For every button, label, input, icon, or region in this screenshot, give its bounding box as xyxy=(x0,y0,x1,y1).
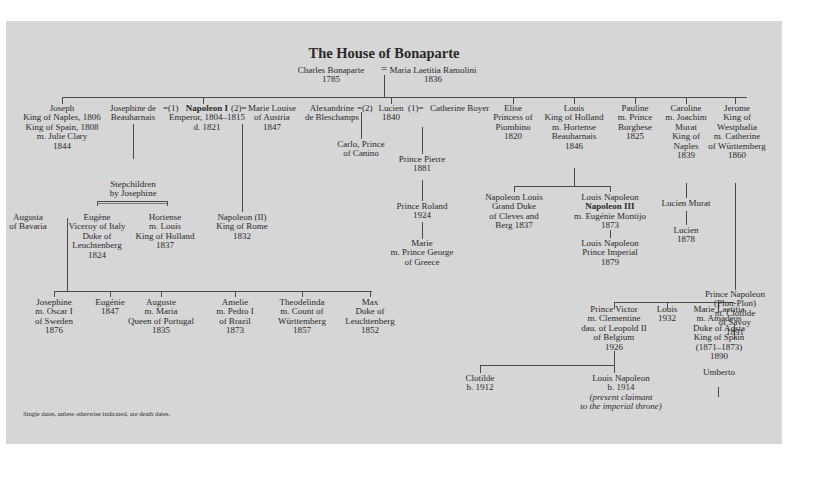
person-charles-bonaparte: Charles Bonaparte 1785 xyxy=(298,66,365,85)
person-prince-pierre: Prince Pierre 1881 xyxy=(399,155,446,174)
person-date: 1820 xyxy=(493,132,533,141)
person-catherine-boyer: Catherine Boyer xyxy=(430,104,489,113)
person-date: 1840 xyxy=(379,113,404,122)
person-carlo: Carlo, Prince of Canino xyxy=(337,140,385,159)
person-caroline: Caroline m. Joachim Murat King of Naples… xyxy=(665,104,707,160)
person-detail: of Bavaria xyxy=(9,222,47,231)
person-detail: of Canino xyxy=(337,149,385,158)
person-date: 1847 xyxy=(248,123,296,132)
person-date: 1924 xyxy=(396,211,447,220)
person-pauline: Pauline m. Prince Borghese 1825 xyxy=(618,104,653,142)
connector xyxy=(167,201,168,206)
person-jerome: Jerome King of Westphalia m. Catherine o… xyxy=(708,104,765,160)
person-date: 1837 xyxy=(136,241,195,250)
person-louis: Louis King of Holland m. Hortense Beauha… xyxy=(545,104,604,151)
connector xyxy=(480,365,481,373)
person-eugenie: Eugénie 1847 xyxy=(95,298,125,317)
connector xyxy=(242,124,243,212)
person-date: 1879 xyxy=(581,258,639,267)
person-date: 1846 xyxy=(545,142,604,151)
person-date: b. 1912 xyxy=(466,383,495,392)
connector xyxy=(610,230,611,238)
marriage-symbol: (1)= xyxy=(408,104,424,113)
person-napoleon-iii: Louis Napoleon Napoleon III m. Eugénie M… xyxy=(574,193,646,231)
person-date: 1876 xyxy=(35,326,73,335)
marriage-symbol: (2)= xyxy=(231,104,247,113)
page-title: The House of Bonaparte xyxy=(308,45,459,62)
person-prince-imperial: Louis Napoleon Prince Imperial 1879 xyxy=(581,239,639,267)
person-auguste: Auguste m. Maria Queen of Portugal 1835 xyxy=(128,298,194,336)
connector xyxy=(686,183,687,198)
person-name: Beauharnais xyxy=(110,113,156,122)
person-umberto: Umberto xyxy=(703,368,735,377)
person-date: 1932 xyxy=(657,314,678,323)
person-max: Max Duke of Leuchtenberg 1852 xyxy=(345,298,394,336)
claimant-note: to the imperial throne) xyxy=(580,402,661,411)
connector xyxy=(133,124,134,159)
connector xyxy=(686,211,687,225)
connector xyxy=(384,75,385,97)
person-date: 1890 xyxy=(693,352,745,361)
person-date: 1825 xyxy=(618,132,653,141)
connector xyxy=(422,127,423,154)
marriage-symbol: = xyxy=(381,64,387,73)
person-hortense: Hortense m. Louis King of Holland 1837 xyxy=(136,213,195,251)
person-marie-louise: Marie Louise of Austria 1847 xyxy=(248,104,296,132)
person-lucien: Lucien 1840 xyxy=(379,104,404,123)
connector xyxy=(718,387,719,397)
person-date: 1873 xyxy=(216,326,254,335)
person-louis-napoleon-claimant: Louis Napoleon b. 1914 (present claimant… xyxy=(580,374,661,412)
person-date: 1881 xyxy=(399,164,446,173)
person-joseph: Joseph King of Naples, 1806 King of Spai… xyxy=(23,104,101,151)
person-napoleon-ii: Napoleon (II) King of Rome 1832 xyxy=(216,213,268,241)
person-lucien-murat: Lucien Murat xyxy=(661,199,710,208)
person-date: 1857 xyxy=(278,326,326,335)
footnote: Single dates, unless otherwise indicated… xyxy=(23,410,170,417)
connector xyxy=(97,203,167,204)
connector xyxy=(735,183,736,290)
person-clotilde: Clotilde b. 1912 xyxy=(466,374,495,393)
person-date: 1844 xyxy=(23,142,101,151)
person-date: 1824 xyxy=(69,251,126,260)
person-prince-victor: Prince Victor m. Clementine dau. of Leop… xyxy=(581,305,646,352)
connector xyxy=(361,112,362,139)
connector xyxy=(480,365,614,366)
person-louis-1932: Louis 1932 xyxy=(657,305,678,324)
connector xyxy=(54,291,372,292)
person-detail: Berg 1837 xyxy=(485,221,543,230)
stepchildren-label: Stepchildren by Josephine xyxy=(110,180,157,199)
person-alexandrine: Alexandrine de Bleschamps xyxy=(305,104,359,123)
connector xyxy=(97,201,167,202)
label-text: by Josephine xyxy=(110,189,157,198)
person-date: 1839 xyxy=(665,151,707,160)
person-amelie: Amelie m. Pedro I of Brazil 1873 xyxy=(216,298,254,336)
person-maria-laetitia: Maria Laetitia Ramolini 1836 xyxy=(390,66,477,85)
connector xyxy=(422,180,423,201)
connector xyxy=(614,351,615,366)
person-prince-roland: Prince Roland 1924 xyxy=(396,202,447,221)
person-elise: Elise Princess of Piombino 1820 xyxy=(493,104,533,142)
person-date: 1878 xyxy=(674,235,699,244)
person-eugene: Eugène Viceroy of Italy Duke of Leuchten… xyxy=(69,213,126,260)
connector xyxy=(614,365,615,373)
connector xyxy=(422,222,423,239)
person-lucien-murat-son: Lucien 1878 xyxy=(674,226,699,245)
person-marie-laetitia: Marie Laetitia m. Amadeus Duke of Aosta … xyxy=(693,305,745,361)
person-date: 1847 xyxy=(95,307,125,316)
person-date: 1835 xyxy=(128,326,194,335)
person-date: 1852 xyxy=(345,326,394,335)
person-name: de Bleschamps xyxy=(305,113,359,122)
connector xyxy=(62,97,747,98)
person-theodelinda: Theodelinda m. Count of Württemberg 1857 xyxy=(278,298,326,336)
person-date: 1926 xyxy=(581,343,646,352)
person-detail: of Greece xyxy=(390,258,453,267)
person-date: 1836 xyxy=(390,75,477,84)
person-marie: Marie m. Prince George of Greece xyxy=(390,239,453,267)
person-napoleon-louis: Napoleon Louis Grand Duke of Cleves and … xyxy=(485,193,543,231)
person-date: 1860 xyxy=(708,151,765,160)
connector xyxy=(574,168,575,186)
person-date: 1873 xyxy=(574,221,646,230)
person-date: 1832 xyxy=(216,232,268,241)
connector xyxy=(514,186,610,187)
person-josephine-sweden: Josephine m. Oscar I of Sweden 1876 xyxy=(35,298,73,336)
